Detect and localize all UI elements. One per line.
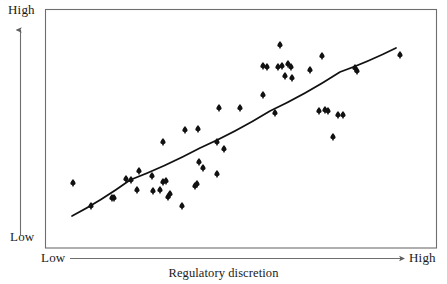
- plot-canvas: [0, 0, 447, 284]
- plot-frame: [46, 10, 437, 249]
- scatter-plot-figure: High Low Low High Regulatory discretion …: [0, 0, 447, 284]
